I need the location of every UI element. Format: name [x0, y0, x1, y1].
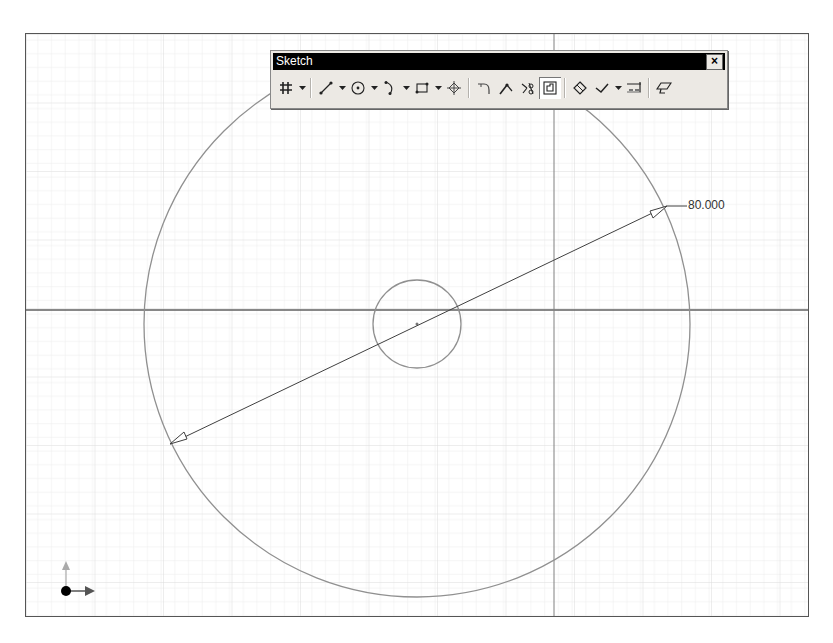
dimension-value[interactable]: 80.000 [688, 198, 725, 212]
close-button[interactable]: × [706, 54, 723, 70]
chevron-down-icon [371, 86, 378, 90]
circle-dropdown[interactable] [369, 77, 379, 99]
extend-button[interactable] [495, 77, 517, 99]
constraints-button[interactable] [569, 77, 591, 99]
arc-icon [382, 80, 398, 96]
arc-dropdown[interactable] [401, 77, 411, 99]
rectangle-button[interactable] [411, 77, 433, 99]
point-icon [446, 80, 462, 96]
fillet-button[interactable] [473, 77, 495, 99]
line-dropdown[interactable] [337, 77, 347, 99]
chevron-down-icon [339, 86, 346, 90]
chevron-down-icon [435, 86, 442, 90]
chevron-down-icon [299, 86, 306, 90]
point-button[interactable] [443, 77, 465, 99]
separator [564, 78, 566, 98]
separator [648, 78, 650, 98]
line-icon [318, 80, 334, 96]
trim-button[interactable] [517, 77, 539, 99]
sketch-drawing[interactable] [26, 34, 808, 616]
chevron-down-icon [615, 86, 622, 90]
offset-button[interactable] [539, 77, 561, 99]
toolbar-title: Sketch [276, 54, 313, 68]
fillet-icon [476, 80, 492, 96]
toolbar-title-bar[interactable]: Sketch × [273, 53, 725, 70]
separator [468, 78, 470, 98]
grid-snap-button[interactable] [275, 77, 297, 99]
check-button[interactable] [591, 77, 613, 99]
line-button[interactable] [315, 77, 337, 99]
check-dropdown[interactable] [613, 77, 623, 99]
offset-icon [542, 80, 558, 96]
circle-icon [350, 80, 366, 96]
eraser-icon [656, 80, 672, 96]
dimension-icon [625, 80, 643, 96]
sketch-toolbar[interactable]: Sketch × [270, 50, 728, 109]
toolbar-buttons [275, 75, 675, 101]
extend-icon [498, 80, 514, 96]
chevron-down-icon [403, 86, 410, 90]
separator [310, 78, 312, 98]
rectangle-dropdown[interactable] [433, 77, 443, 99]
rectangle-icon [414, 80, 430, 96]
arc-button[interactable] [379, 77, 401, 99]
grid-snap-dropdown[interactable] [297, 77, 307, 99]
eraser-button[interactable] [653, 77, 675, 99]
trim-icon [520, 80, 536, 96]
sketch-canvas[interactable] [25, 33, 809, 617]
check-icon [594, 80, 610, 96]
circle-button[interactable] [347, 77, 369, 99]
constraint-icon [572, 80, 588, 96]
dimension-button[interactable] [623, 77, 645, 99]
grid-icon [278, 80, 294, 96]
